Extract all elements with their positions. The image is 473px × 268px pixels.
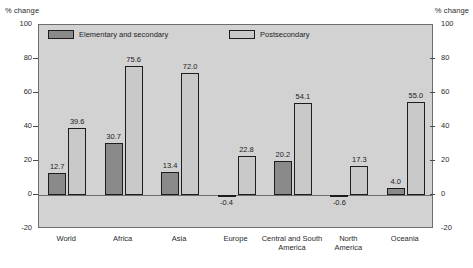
bar-value-label: -0.6 — [322, 199, 356, 207]
y-tick-mark-left-0 — [33, 194, 38, 195]
bar — [350, 166, 368, 195]
bar — [161, 172, 179, 195]
y-tick-label-left-20: 20 — [4, 156, 32, 164]
y-tick-label-left-100: 100 — [4, 20, 32, 28]
y-tick-label-left-80: 80 — [4, 54, 32, 62]
left-axis-caption: % change — [5, 6, 39, 15]
y-tick-label-right-20: 20 — [441, 156, 469, 164]
bar — [105, 143, 123, 195]
legend-item-postsecondary: Postsecondary — [229, 30, 310, 39]
bar-value-label: 54.1 — [286, 93, 320, 101]
bar — [330, 195, 348, 197]
bar — [218, 195, 236, 197]
legend-swatch-postsecondary-icon — [229, 30, 255, 39]
y-tick-label-right-40: 40 — [441, 122, 469, 130]
y-tick-label-left--20: -20 — [4, 224, 32, 232]
y-tick-label-right-100: 100 — [441, 20, 469, 28]
bar — [387, 188, 405, 195]
bar — [125, 66, 143, 195]
bar-value-label: 17.3 — [342, 156, 376, 164]
bar-chart: % change % change 12.739.630.775.613.472… — [0, 0, 473, 268]
y-tick-label-left-40: 40 — [4, 122, 32, 130]
y-tick-mark-right-60 — [430, 92, 435, 93]
chart-legend: Elementary and secondary Postsecondary — [48, 30, 378, 44]
category-label: Oceania — [363, 234, 447, 243]
zero-baseline — [39, 195, 432, 196]
plot-area: 12.739.630.775.613.472.0-0.422.820.254.1… — [38, 24, 433, 228]
y-tick-label-left-60: 60 — [4, 88, 32, 96]
legend-item-elementary-and-secondary: Elementary and secondary — [48, 30, 168, 39]
right-axis-caption: % change — [435, 6, 469, 15]
bar — [68, 128, 86, 195]
y-tick-mark-left-80 — [33, 58, 38, 59]
bar — [294, 103, 312, 195]
bar-value-label: 22.8 — [230, 146, 264, 154]
bar-value-label: -0.4 — [210, 199, 244, 207]
y-tick-mark-right-40 — [430, 126, 435, 127]
legend-swatch-elementary-icon — [48, 30, 74, 39]
y-tick-mark-left-60 — [33, 92, 38, 93]
y-tick-mark-left-40 — [33, 126, 38, 127]
legend-label-postsecondary: Postsecondary — [260, 30, 310, 39]
bar-value-label: 39.6 — [60, 118, 94, 126]
y-tick-label-right-80: 80 — [441, 54, 469, 62]
bar — [181, 73, 199, 195]
y-tick-mark-right-0 — [430, 194, 435, 195]
y-tick-mark-right-20 — [430, 160, 435, 161]
y-tick-label-right--20: -20 — [441, 224, 469, 232]
bar-value-label: 72.0 — [173, 63, 207, 71]
y-tick-mark-left-20 — [33, 160, 38, 161]
bar — [48, 173, 66, 195]
y-tick-mark-right-80 — [430, 58, 435, 59]
legend-label-elementary: Elementary and secondary — [79, 30, 168, 39]
bar — [274, 161, 292, 195]
y-tick-label-right-60: 60 — [441, 88, 469, 96]
y-tick-label-right-0: 0 — [441, 190, 469, 198]
bar — [238, 156, 256, 195]
bar — [407, 102, 425, 196]
bar-value-label: 75.6 — [117, 56, 151, 64]
bar-value-label: 55.0 — [399, 92, 433, 100]
y-tick-label-left-0: 0 — [4, 190, 32, 198]
